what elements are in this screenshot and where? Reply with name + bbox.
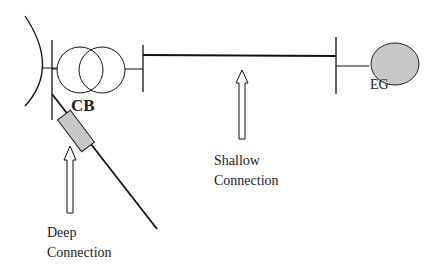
deep-connection-arrow [64, 146, 76, 213]
deep-label-line2: Connection [47, 245, 112, 260]
transmission-line [143, 55, 336, 56]
eg-label: EG [370, 77, 389, 92]
deep-label-line1: Deep [47, 225, 77, 240]
transformer [52, 47, 143, 93]
shallow-label-line2: Connection [214, 173, 279, 188]
connection-diagram: CB EG Shallow Connection Deep Connection [0, 0, 436, 264]
grid-source-curve [25, 16, 43, 106]
shallow-connection-arrow [236, 70, 248, 139]
shallow-label-line1: Shallow [214, 153, 261, 168]
circuit-breaker [58, 110, 95, 152]
cb-label: CB [71, 96, 95, 115]
